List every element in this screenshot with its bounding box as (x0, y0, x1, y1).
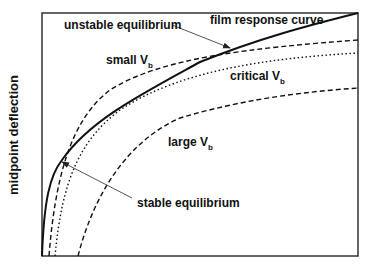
y-axis-label: midpoint deflection (6, 75, 21, 195)
stable-equilibrium-label: stable equilibrium (137, 196, 240, 210)
film-response-curve-label: film response curve (210, 13, 324, 27)
diagram-canvas: unstable equilibrium film response curve… (0, 0, 368, 271)
large-vb-label: large Vb (168, 135, 213, 152)
critical-vb-curve (55, 53, 358, 256)
critical-vb-label: critical Vb (230, 69, 285, 86)
unstable-equilibrium-label: unstable equilibrium (64, 18, 181, 32)
large-vb-curve (78, 88, 358, 256)
small-vb-label: small Vb (106, 53, 153, 70)
stable-equilibrium-arrow (62, 162, 132, 198)
